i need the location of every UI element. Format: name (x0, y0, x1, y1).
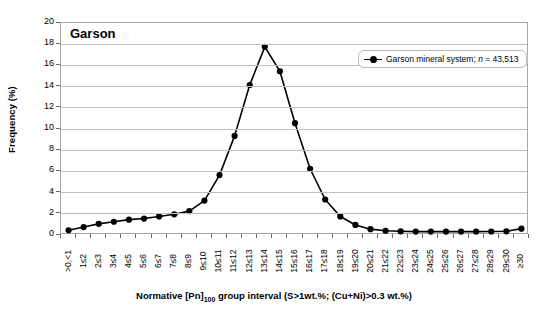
legend-label-suffix: = 43,513 (483, 54, 519, 64)
gridline (61, 129, 527, 130)
series-data-point (473, 229, 479, 235)
x-tick-label-text: 28≤29 (485, 249, 495, 273)
x-tick-label: 1≤2 (76, 239, 89, 287)
y-tick-mark (56, 43, 60, 44)
x-axis-title-subscript: 100 (204, 296, 216, 303)
x-tick-label: 28≤29 (484, 239, 497, 287)
y-tick-label: 18 (30, 37, 54, 47)
x-tick-label: 17≤18 (318, 239, 331, 287)
gridline (61, 171, 527, 172)
x-tick-mark (483, 234, 484, 238)
x-tick-label: 16≤17 (303, 239, 316, 287)
x-tick-mark (332, 234, 333, 238)
x-tick-mark (528, 234, 529, 238)
x-tick-mark (453, 234, 454, 238)
series-data-point (382, 228, 388, 234)
x-tick-mark (377, 234, 378, 238)
x-tick-label: 11≤12 (227, 239, 240, 287)
series-data-point (201, 197, 207, 203)
series-data-point (96, 221, 102, 227)
x-tick-label-text: 20≤21 (364, 249, 374, 273)
y-axis-title-text: Frequency (%) (6, 86, 17, 153)
x-tick-label: 15≤16 (288, 239, 301, 287)
x-tick-mark (90, 234, 91, 238)
gridline (61, 192, 527, 193)
y-tick-label: 8 (30, 143, 54, 153)
y-tick-mark (56, 212, 60, 213)
x-tick-mark (468, 234, 469, 238)
chart-figure: Frequency (%) Garson Garson mineral syst… (0, 0, 548, 314)
x-tick-label-text: 8≤9 (183, 254, 193, 268)
y-tick-label: 14 (30, 80, 54, 90)
series-data-point (458, 229, 464, 235)
y-tick-label: 10 (30, 122, 54, 132)
x-tick-label: 7≤8 (167, 239, 180, 287)
series-data-point (443, 229, 449, 235)
series-data-point (65, 227, 71, 233)
series-data-point (518, 226, 524, 232)
x-tick-label-text: 7≤8 (168, 254, 178, 268)
gridline (61, 213, 527, 214)
y-tick-mark (56, 64, 60, 65)
x-tick-mark (196, 234, 197, 238)
y-tick-label: 12 (30, 101, 54, 111)
x-tick-label-text: 1≤2 (78, 254, 88, 268)
x-tick-label: 29≤30 (499, 239, 512, 287)
x-axis-title-before: Normative [Pn] (136, 290, 204, 301)
series-data-point (277, 68, 283, 74)
x-tick-label-text: 26≤27 (455, 249, 465, 273)
series-data-point (141, 215, 147, 221)
y-tick-label: 20 (30, 16, 54, 26)
x-tick-label-text: 11≤12 (229, 250, 239, 273)
x-tick-label: 3≤4 (106, 239, 119, 287)
x-tick-mark (407, 234, 408, 238)
x-tick-label-text: ≥30 (515, 254, 525, 268)
x-tick-label-text: 19≤20 (349, 249, 359, 273)
x-tick-mark (135, 234, 136, 238)
x-tick-label: 8≤9 (182, 239, 195, 287)
y-tick-mark (56, 128, 60, 129)
x-tick-label: 19≤20 (348, 239, 361, 287)
series-data-point (352, 222, 358, 228)
x-tick-label: 23≤24 (408, 239, 421, 287)
x-tick-label-text: 18≤19 (334, 249, 344, 273)
x-tick-label-text: 16≤17 (304, 249, 314, 273)
series-line (69, 47, 522, 232)
series-data-point (126, 217, 132, 223)
x-tick-label: 10≤11 (212, 239, 225, 287)
x-tick-mark (151, 234, 152, 238)
x-tick-label-text: 24≤25 (425, 249, 435, 273)
x-axis-title-after: group interval (S>1wt.%; (Cu+Ni)>0.3 wt.… (215, 290, 412, 301)
x-tick-label-text: 15≤16 (289, 249, 299, 273)
series-data-point (111, 219, 117, 225)
x-tick-label: 5≤6 (137, 239, 150, 287)
x-tick-label: 20≤21 (363, 239, 376, 287)
x-tick-mark (256, 234, 257, 238)
x-tick-label-text: 4≤5 (123, 254, 133, 268)
x-tick-label: 12≤13 (242, 239, 255, 287)
series-data-point (367, 226, 373, 232)
chart-legend[interactable]: Garson mineral system; n = 43,513 (358, 50, 527, 68)
x-axis-title: Normative [Pn]100 group interval (S>1wt.… (0, 290, 548, 303)
series-data-point (413, 229, 419, 235)
gridline (61, 86, 527, 87)
series-data-point (488, 228, 494, 234)
x-tick-mark (362, 234, 363, 238)
x-tick-label: 18≤19 (333, 239, 346, 287)
x-tick-mark (286, 234, 287, 238)
series-data-point (81, 224, 87, 230)
series-data-point (428, 229, 434, 235)
x-tick-label-text: 9≤10 (198, 252, 208, 271)
y-tick-label: 4 (30, 186, 54, 196)
legend-line-circle-marker-icon (364, 55, 382, 64)
x-tick-label: 22≤23 (393, 239, 406, 287)
x-tick-label: 9≤10 (197, 239, 210, 287)
x-tick-mark (211, 234, 212, 238)
x-tick-label: 25≤26 (438, 239, 451, 287)
x-tick-label-text: 12≤13 (244, 249, 254, 273)
y-tick-mark (56, 22, 60, 23)
x-tick-label: 21≤22 (378, 239, 391, 287)
x-tick-label-text: 10≤11 (214, 250, 224, 273)
x-tick-mark (271, 234, 272, 238)
x-tick-label-text: >0,<1 (63, 250, 73, 272)
